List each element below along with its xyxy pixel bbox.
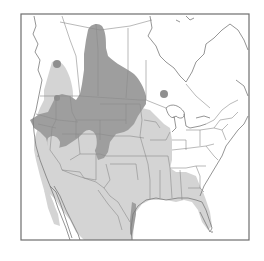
range-dot-ontario [160, 90, 168, 98]
range-map [0, 0, 264, 261]
range-dot-bc [53, 60, 61, 68]
range-map-svg [0, 0, 264, 261]
